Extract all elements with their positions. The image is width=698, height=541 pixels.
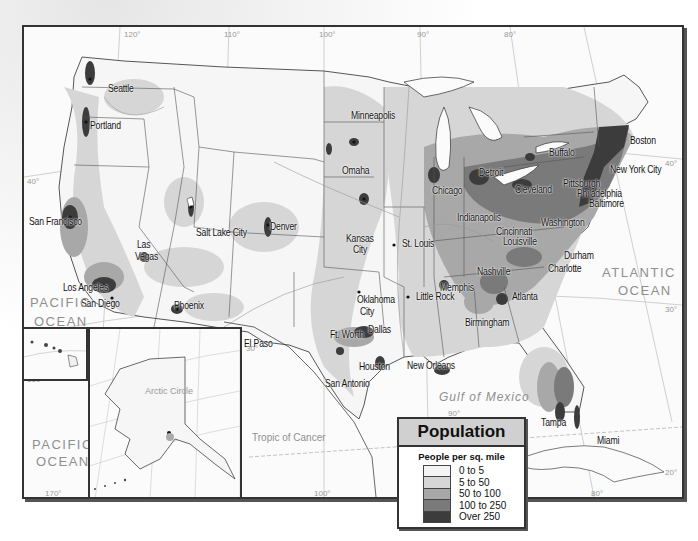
legend-row-50-100: 50 to 100 xyxy=(423,488,524,500)
city-label: Los Angeles xyxy=(63,281,108,293)
legend-label: 0 to 5 xyxy=(459,465,484,476)
tropic-of-cancer-label: Tropic of Cancer xyxy=(252,432,326,443)
water-body-label: PACIFIC xyxy=(32,437,93,452)
water-body-label: OCEAN xyxy=(36,454,90,469)
graticule-label: 100° xyxy=(319,30,336,39)
cuba xyxy=(524,446,664,482)
alaska-landmass xyxy=(105,357,235,479)
city-label: Salt Lake City xyxy=(196,226,247,238)
legend-title: Population xyxy=(399,419,524,447)
city-label: Minneapolis xyxy=(351,109,395,121)
city-label: New Orleans xyxy=(407,359,455,371)
city-label: Seattle xyxy=(108,82,134,94)
city-label: Oklahoma xyxy=(357,293,395,305)
graticule-label: 100° xyxy=(314,489,331,498)
city-label: Dallas xyxy=(368,323,391,335)
graticule-label: 30° xyxy=(246,344,258,353)
graticule-label: 20° xyxy=(665,468,677,477)
city-label: Atlanta xyxy=(512,290,538,302)
city-label: Miami xyxy=(597,434,619,446)
city-label: Las xyxy=(137,238,150,250)
graticule-label: 40° xyxy=(27,177,39,186)
graticule-label: 30° xyxy=(665,305,677,314)
city-label: Portland xyxy=(90,119,121,131)
city-label: City xyxy=(360,305,374,317)
graticule-label: 120° xyxy=(124,30,141,39)
population-legend: Population People per sq. mile 0 to 5 5 … xyxy=(397,417,526,529)
graticule-label: 90° xyxy=(417,30,429,39)
city-label: Chicago xyxy=(432,184,462,196)
city-label: Indianapolis xyxy=(457,211,501,223)
city-label: San Francisco xyxy=(29,215,82,227)
city-label: Denver xyxy=(270,220,297,232)
city-label: St. Louis xyxy=(402,237,434,249)
water-body-label: PACIFIC xyxy=(30,295,91,310)
city-label: Louisville xyxy=(503,235,537,247)
hawaii-map xyxy=(24,329,86,379)
city-label: Phoenix xyxy=(174,299,204,311)
legend-swatch xyxy=(423,511,451,524)
graticule-label: 80° xyxy=(504,30,516,39)
legend-row-over-250: Over 250 xyxy=(423,511,524,523)
legend-classes: 0 to 5 5 to 50 50 to 100 100 to 250 Over… xyxy=(399,465,524,523)
city-label: Buffalo xyxy=(549,146,575,158)
map-frame: SeattlePortlandSan FranciscoLos AngelesS… xyxy=(22,25,684,499)
city-label: Charlotte xyxy=(548,262,581,274)
city-label: New York City xyxy=(610,163,661,175)
city-label: Omaha xyxy=(342,164,369,176)
graticule-label: 40° xyxy=(665,159,677,168)
city-label: Birmingham xyxy=(465,316,509,328)
city-label: Tampa xyxy=(541,416,566,428)
city-label: Memphis xyxy=(440,281,474,293)
city-label: Washington xyxy=(541,216,585,228)
graticule-label: 80° xyxy=(591,489,603,498)
city-label: City xyxy=(353,243,367,255)
hawaii-inset xyxy=(22,327,88,381)
legend-row-100-250: 100 to 250 xyxy=(423,500,524,512)
legend-label: 5 to 50 xyxy=(459,477,490,488)
legend-subtitle: People per sq. mile xyxy=(399,451,524,462)
legend-label: 100 to 250 xyxy=(459,500,506,511)
legend-row-0-5: 0 to 5 xyxy=(423,465,524,477)
city-label: Cleveland xyxy=(515,183,552,195)
legend-row-5-50: 5 to 50 xyxy=(423,477,524,489)
city-label: Durham xyxy=(564,249,594,261)
alaska-map: Arctic Circle xyxy=(90,329,240,499)
city-label: Detroit xyxy=(479,166,503,178)
water-body-label: OCEAN xyxy=(618,283,672,298)
city-label: San Antonio xyxy=(325,377,370,389)
arctic-circle-label: Arctic Circle xyxy=(145,386,193,396)
city-label: Philadelphia xyxy=(577,187,622,199)
legend-label: 50 to 100 xyxy=(459,488,501,499)
graticule-label: 170° xyxy=(45,489,62,498)
city-label: Ft. Worth xyxy=(330,328,364,340)
city-label: Boston xyxy=(630,134,656,146)
water-body-label: Gulf of Mexico xyxy=(439,390,530,404)
alaska-inset: Arctic Circle xyxy=(88,327,242,499)
city-label: Houston xyxy=(359,360,390,372)
legend-label: Over 250 xyxy=(459,511,500,522)
water-body-label: ATLANTIC xyxy=(602,265,676,280)
graticule-label: 110° xyxy=(224,30,240,39)
city-label: Vegas xyxy=(135,250,158,262)
city-label: Nashville xyxy=(477,265,510,277)
